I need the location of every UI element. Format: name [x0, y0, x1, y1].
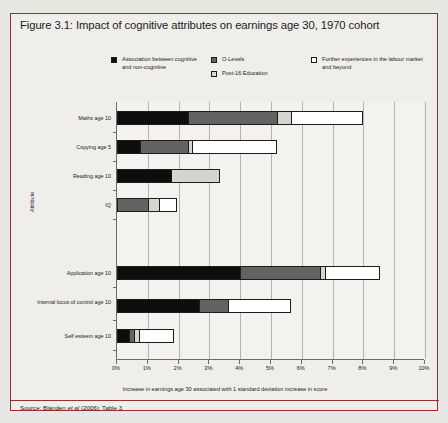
x-axis-tick	[362, 360, 363, 364]
x-axis-tick	[424, 360, 425, 364]
x-axis-tick-label: 2%	[174, 365, 182, 371]
x-axis-tick	[147, 360, 148, 364]
bar-stack[interactable]	[117, 266, 380, 280]
y-axis-tick	[113, 161, 116, 162]
y-axis-tick	[113, 287, 116, 288]
legend-swatch-light-gray-icon	[211, 71, 217, 77]
bar-segment[interactable]	[277, 111, 291, 125]
x-axis-tick	[116, 360, 117, 364]
legend-item-o-levels: O-Levels	[211, 56, 293, 64]
bar-segment[interactable]	[325, 266, 380, 280]
bar-segment[interactable]	[188, 111, 277, 125]
x-axis-tick-label: 3%	[204, 365, 212, 371]
legend-item-further-experiences: Further experiences in the labour market…	[311, 56, 431, 71]
bar-segment[interactable]	[117, 299, 199, 313]
gridline	[425, 102, 426, 359]
bar-stack[interactable]	[117, 329, 174, 343]
bar-stack[interactable]	[117, 140, 277, 154]
x-axis-tick	[178, 360, 179, 364]
bar-stack[interactable]	[117, 111, 363, 125]
bar-segment[interactable]	[192, 140, 277, 154]
gridline	[363, 102, 364, 359]
bar-segment[interactable]	[117, 329, 129, 343]
y-axis-tick	[113, 132, 116, 133]
x-axis-tick	[239, 360, 240, 364]
bar-segment[interactable]	[117, 169, 171, 183]
figure-title: Figure 3.1: Impact of cognitive attribut…	[20, 18, 400, 33]
bar-stack[interactable]	[117, 299, 291, 313]
bar-segment[interactable]	[199, 299, 228, 313]
bar-segment[interactable]	[240, 266, 320, 280]
x-axis-tick-label: 8%	[358, 365, 366, 371]
y-axis-label: Reading age 10	[19, 173, 111, 180]
plot-area: Maths age 10Copying age 5Reading age 10I…	[116, 102, 424, 360]
x-axis-tick-label: 10%	[418, 365, 429, 371]
bar-stack[interactable]	[117, 169, 220, 183]
legend-item-post16: Post-16 Education	[211, 70, 293, 78]
x-axis-tick-label: 4%	[235, 365, 243, 371]
bar-segment[interactable]	[291, 111, 363, 125]
y-axis-tick	[113, 219, 116, 220]
plot-canvas	[116, 102, 424, 360]
legend-swatch-dark-gray-icon	[211, 57, 217, 63]
figure-container: Figure 3.1: Impact of cognitive attribut…	[10, 13, 438, 411]
x-axis-tick-label: 5%	[266, 365, 274, 371]
x-axis-tick-label: 9%	[389, 365, 397, 371]
x-axis-tick-label: 7%	[328, 365, 336, 371]
y-axis-tick	[113, 190, 116, 191]
x-axis-tick	[270, 360, 271, 364]
y-axis-label: IQ	[19, 202, 111, 209]
x-axis-tick-label: 0%	[112, 365, 120, 371]
bar-segment[interactable]	[117, 111, 188, 125]
x-axis-tick	[301, 360, 302, 364]
legend-swatch-white-icon	[311, 57, 317, 63]
y-axis-label: Self esteem age 10	[19, 333, 111, 340]
bar-segment[interactable]	[140, 140, 188, 154]
chart-legend: Association between cognitive and non-co…	[111, 56, 436, 94]
bar-segment[interactable]	[148, 198, 159, 212]
x-axis-tick	[332, 360, 333, 364]
bar-segment[interactable]	[228, 299, 291, 313]
legend-item-label: Post-16 Education	[222, 70, 268, 76]
x-axis-tick	[208, 360, 209, 364]
bar-stack[interactable]	[117, 198, 177, 212]
gridline	[302, 102, 303, 359]
bar-segment[interactable]	[171, 169, 220, 183]
x-axis-tick	[393, 360, 394, 364]
source-divider	[11, 400, 439, 401]
y-axis-label: Copying age 5	[19, 144, 111, 151]
bar-segment[interactable]	[117, 140, 140, 154]
x-axis-title: Increase in earnings age 30 associated w…	[11, 386, 439, 392]
y-axis-tick	[113, 350, 116, 351]
y-axis-label: Maths age 10	[19, 115, 111, 122]
x-axis-tick-label: 6%	[297, 365, 305, 371]
bar-segment[interactable]	[117, 198, 148, 212]
bar-segment[interactable]	[159, 198, 177, 212]
bar-segment[interactable]	[117, 266, 240, 280]
legend-item-label: Association between cognitive and non-co…	[122, 56, 197, 70]
legend-swatch-black-icon	[111, 57, 117, 63]
y-axis-label: Internal locus of control age 10	[19, 299, 111, 306]
legend-item-association: Association between cognitive and non-co…	[111, 56, 203, 71]
y-axis-tick	[113, 320, 116, 321]
y-axis-label: Application age 10	[19, 270, 111, 277]
x-axis-ticks: 0%1%2%3%4%5%6%7%8%9%10%	[116, 360, 424, 380]
gridline	[333, 102, 334, 359]
source-note: Source: Blanden et al (2006): Table 3	[20, 404, 122, 411]
legend-item-label: Further experiences in the labour market…	[322, 56, 423, 70]
x-axis-tick-label: 1%	[143, 365, 151, 371]
legend-item-label: O-Levels	[222, 56, 244, 62]
gridline	[394, 102, 395, 359]
bar-segment[interactable]	[139, 329, 174, 343]
